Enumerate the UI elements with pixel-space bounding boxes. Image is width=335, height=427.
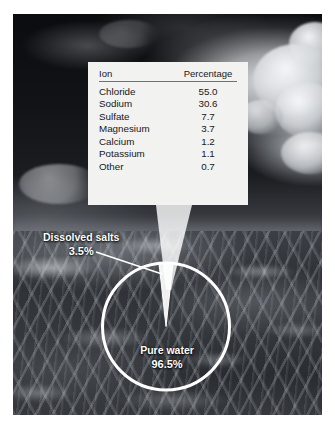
cell-percentage: 0.7 [179,160,237,173]
table-row: Other 0.7 [99,160,237,173]
table-row: Potassium 1.1 [99,147,237,160]
callout-dissolved-salts-label: Dissolved salts [43,231,119,243]
callout-dissolved-salts: Dissolved salts 3.5% [43,231,119,257]
table-row: Chloride 55.0 [99,81,237,97]
column-header-ion: Ion [99,69,179,81]
seawater-composition-figure: Ion Percentage Chloride 55.0 Sodium 30.6… [0,0,335,427]
table-header: Ion Percentage [99,69,237,81]
cell-ion: Chloride [99,81,179,97]
table-header-row: Ion Percentage [99,69,237,81]
cell-percentage: 55.0 [179,81,237,97]
cell-ion: Sulfate [99,109,179,122]
cell-ion: Magnesium [99,122,179,135]
cell-percentage: 3.7 [179,122,237,135]
table-row: Calcium 1.2 [99,134,237,147]
callout-pure-water: Pure water 96.5% [125,344,209,370]
callout-pure-water-value: 96.5% [125,358,209,370]
table-body: Chloride 55.0 Sodium 30.6 Sulfate 7.7 Ma… [99,81,237,172]
table-row: Sulfate 7.7 [99,109,237,122]
cell-percentage: 30.6 [179,97,237,110]
column-header-percentage: Percentage [179,69,237,81]
cell-ion: Other [99,160,179,173]
callout-pure-water-label: Pure water [140,344,194,356]
table-row: Magnesium 3.7 [99,122,237,135]
cell-ion: Sodium [99,97,179,110]
water-layer [13,231,322,415]
ion-composition-table: Ion Percentage Chloride 55.0 Sodium 30.6… [99,69,237,172]
table-row: Sodium 30.6 [99,97,237,110]
cell-percentage: 7.7 [179,109,237,122]
callout-dissolved-salts-value: 3.5% [43,245,119,257]
cell-ion: Calcium [99,134,179,147]
cell-ion: Potassium [99,147,179,160]
cloud-shape [19,164,99,204]
cell-percentage: 1.1 [179,147,237,160]
ion-composition-table-panel: Ion Percentage Chloride 55.0 Sodium 30.6… [88,62,248,205]
cell-percentage: 1.2 [179,134,237,147]
cloud-shape [99,20,159,48]
